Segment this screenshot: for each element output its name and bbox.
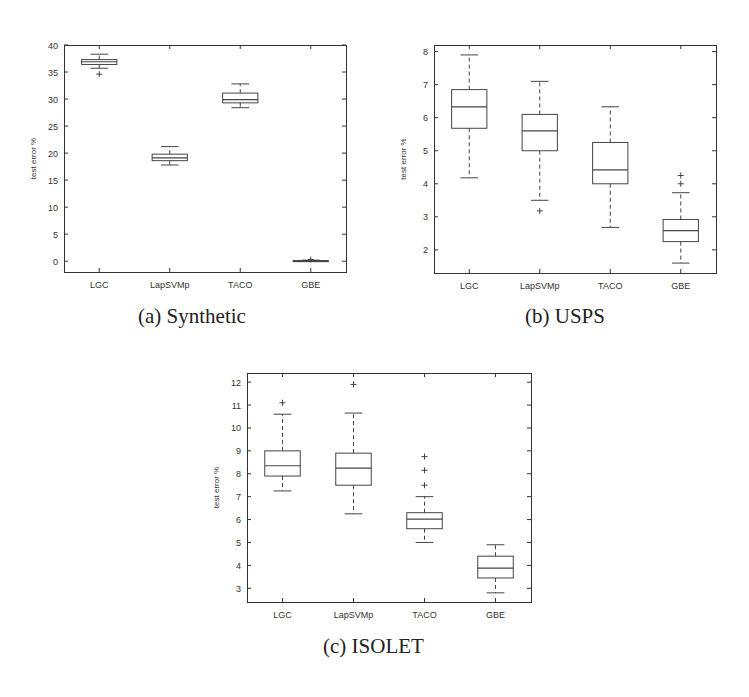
x-tick-label: LGC	[460, 281, 479, 291]
y-tick-label: 25	[48, 122, 58, 132]
y-axis-label: test error %	[29, 138, 38, 179]
box-gbe	[663, 173, 698, 264]
y-tick-label: 35	[48, 68, 58, 78]
box-gbe	[293, 257, 328, 263]
y-tick-label: 3	[236, 584, 241, 594]
plot-frame	[435, 46, 717, 274]
y-tick-label: 0	[53, 257, 58, 267]
x-tick-label: GBE	[301, 280, 320, 290]
x-tick-label: TACO	[228, 280, 252, 290]
boxplot-isolet: 3456789101112test error %LGCLapSVMpTACOG…	[207, 373, 535, 632]
box-taco	[223, 84, 258, 108]
y-tick-label: 5	[423, 146, 428, 156]
y-tick-label: 3	[423, 212, 428, 222]
box-lgc	[82, 54, 117, 77]
box-taco	[407, 454, 443, 543]
y-axis-label: test error %	[399, 138, 408, 179]
x-tick-label: GBE	[486, 610, 505, 620]
box-gbe	[478, 545, 514, 593]
x-tick-label: TACO	[598, 281, 622, 291]
y-tick-label: 11	[232, 401, 241, 411]
caption-synthetic: (a) Synthetic	[138, 304, 246, 329]
y-tick-label: 10	[231, 423, 241, 433]
box-lgc	[265, 400, 301, 491]
y-tick-label: 20	[48, 149, 58, 159]
boxplot-usps: 2345678test error %LGCLapSVMpTACOGBE	[394, 45, 720, 303]
y-tick-label: 6	[236, 515, 241, 525]
y-tick-label: 40	[48, 41, 58, 51]
y-tick-label: 4	[423, 179, 428, 189]
box-lapsvmp	[152, 147, 187, 165]
y-tick-label: 15	[48, 176, 58, 186]
y-tick-label: 5	[236, 538, 241, 548]
y-tick-label: 5	[53, 230, 58, 240]
y-tick-label: 30	[48, 95, 58, 105]
x-tick-label: LapSVMp	[520, 281, 560, 291]
x-tick-label: TACO	[412, 610, 436, 620]
y-tick-label: 7	[423, 80, 428, 90]
y-tick-label: 12	[231, 378, 241, 388]
x-tick-label: LGC	[273, 610, 292, 620]
x-tick-label: LapSVMp	[150, 280, 190, 290]
box-lapsvmp	[336, 381, 372, 513]
y-tick-label: 7	[236, 492, 241, 502]
boxplot-synthetic: 0510152025303540test error %LGCLapSVMpTA…	[24, 45, 350, 302]
box-taco	[593, 107, 628, 228]
y-tick-label: 8	[236, 469, 241, 479]
plot-frame	[65, 46, 347, 273]
y-tick-label: 4	[236, 561, 241, 571]
y-tick-label: 6	[423, 113, 428, 123]
y-tick-label: 9	[236, 446, 241, 456]
caption-isolet: (c) ISOLET	[323, 634, 424, 659]
box-lapsvmp	[522, 81, 557, 214]
y-axis-label: test error %	[212, 467, 221, 508]
caption-usps: (b) USPS	[525, 304, 605, 329]
box-lgc	[452, 55, 487, 178]
x-tick-label: LapSVMp	[334, 610, 374, 620]
x-tick-label: LGC	[90, 280, 109, 290]
y-tick-label: 10	[48, 203, 58, 213]
y-tick-label: 8	[423, 47, 428, 57]
y-tick-label: 2	[423, 245, 428, 255]
x-tick-label: GBE	[671, 281, 690, 291]
